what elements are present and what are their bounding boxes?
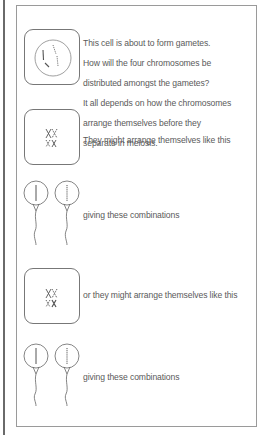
cell-with-chromosomes-icon [25, 30, 81, 86]
sperm-gamete-icon [24, 181, 48, 245]
gametes-2-icons [24, 344, 84, 410]
arrangement-1-caption: They might arrange themselves like this [83, 135, 231, 145]
gametes-2-caption: giving these combinations [83, 372, 179, 382]
arrangement-1-panel [24, 109, 80, 165]
paired-chromosomes-icon [25, 269, 81, 325]
intro-line: arrange themselves before they [83, 118, 231, 128]
arrangement-2-caption: or they might arrange themselves like th… [83, 290, 237, 300]
intro-line: This cell is about to form gametes. [83, 38, 231, 48]
arrangement-2-panel [24, 268, 80, 324]
gametes-1-icons [24, 181, 84, 247]
sperm-gamete-icon [55, 181, 79, 245]
intro-line: It all depends on how the chromosomes [83, 98, 231, 108]
sperm-gamete-icon [55, 344, 79, 406]
intro-line: distributed amongst the gametes? [83, 78, 231, 88]
intro-line: How will the four chromosomes be [83, 58, 231, 68]
sperm-gamete-icon [24, 344, 48, 406]
left-margin-rule [3, 0, 5, 435]
paired-chromosomes-icon [25, 110, 81, 166]
cell-panel [24, 29, 80, 85]
gametes-1-caption: giving these combinations [83, 210, 179, 220]
